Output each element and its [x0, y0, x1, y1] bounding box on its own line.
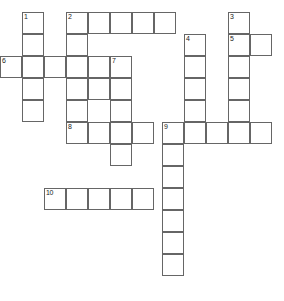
crossword-cell[interactable]: [66, 188, 88, 210]
crossword-cell[interactable]: [184, 78, 206, 100]
crossword-cell[interactable]: 10: [44, 188, 66, 210]
crossword-cell[interactable]: [22, 100, 44, 122]
crossword-cell[interactable]: [184, 122, 206, 144]
crossword-cell[interactable]: [162, 166, 184, 188]
cell-number: 4: [186, 35, 190, 43]
crossword-cell[interactable]: [132, 188, 154, 210]
crossword-cell[interactable]: [110, 78, 132, 100]
crossword-puzzle: 12354678910: [0, 0, 284, 301]
crossword-cell[interactable]: [110, 188, 132, 210]
crossword-cell[interactable]: [162, 210, 184, 232]
crossword-cell[interactable]: [110, 122, 132, 144]
crossword-cell[interactable]: [88, 188, 110, 210]
cell-number: 7: [112, 57, 116, 65]
crossword-cell[interactable]: [184, 100, 206, 122]
crossword-cell[interactable]: [66, 78, 88, 100]
crossword-cell[interactable]: [88, 56, 110, 78]
crossword-grid[interactable]: 12354678910: [0, 0, 284, 301]
cell-number: 1: [24, 13, 28, 21]
cell-number: 2: [68, 13, 72, 21]
crossword-cell[interactable]: 3: [228, 12, 250, 34]
crossword-cell[interactable]: [228, 100, 250, 122]
crossword-cell[interactable]: [88, 78, 110, 100]
crossword-cell[interactable]: 8: [66, 122, 88, 144]
crossword-cell[interactable]: 2: [66, 12, 88, 34]
cell-number: 3: [230, 13, 234, 21]
crossword-cell[interactable]: [250, 122, 272, 144]
crossword-cell[interactable]: [162, 254, 184, 276]
crossword-cell[interactable]: 9: [162, 122, 184, 144]
crossword-cell[interactable]: [66, 100, 88, 122]
cell-number: 10: [46, 189, 53, 197]
crossword-cell[interactable]: [228, 122, 250, 144]
cell-number: 8: [68, 123, 72, 131]
crossword-cell[interactable]: [206, 122, 228, 144]
crossword-cell[interactable]: [44, 56, 66, 78]
crossword-cell[interactable]: [250, 34, 272, 56]
crossword-cell[interactable]: [132, 122, 154, 144]
crossword-cell[interactable]: [22, 78, 44, 100]
crossword-cell[interactable]: [162, 144, 184, 166]
crossword-cell[interactable]: [184, 56, 206, 78]
crossword-cell[interactable]: [66, 34, 88, 56]
crossword-cell[interactable]: [22, 56, 44, 78]
crossword-cell[interactable]: [88, 12, 110, 34]
crossword-cell[interactable]: 1: [22, 12, 44, 34]
crossword-cell[interactable]: 4: [184, 34, 206, 56]
cell-number: 5: [230, 35, 234, 43]
crossword-cell[interactable]: 7: [110, 56, 132, 78]
crossword-cell[interactable]: [154, 12, 176, 34]
crossword-cell[interactable]: [66, 56, 88, 78]
crossword-cell[interactable]: [110, 144, 132, 166]
crossword-cell[interactable]: [110, 100, 132, 122]
crossword-cell[interactable]: [162, 188, 184, 210]
crossword-cell[interactable]: [88, 122, 110, 144]
crossword-cell[interactable]: [132, 12, 154, 34]
cell-number: 6: [2, 57, 6, 65]
crossword-cell[interactable]: [228, 56, 250, 78]
crossword-cell[interactable]: [162, 232, 184, 254]
crossword-cell[interactable]: 6: [0, 56, 22, 78]
cell-number: 9: [164, 123, 168, 131]
crossword-cell[interactable]: [22, 34, 44, 56]
crossword-cell[interactable]: [110, 12, 132, 34]
crossword-cell[interactable]: 5: [228, 34, 250, 56]
crossword-cell[interactable]: [228, 78, 250, 100]
